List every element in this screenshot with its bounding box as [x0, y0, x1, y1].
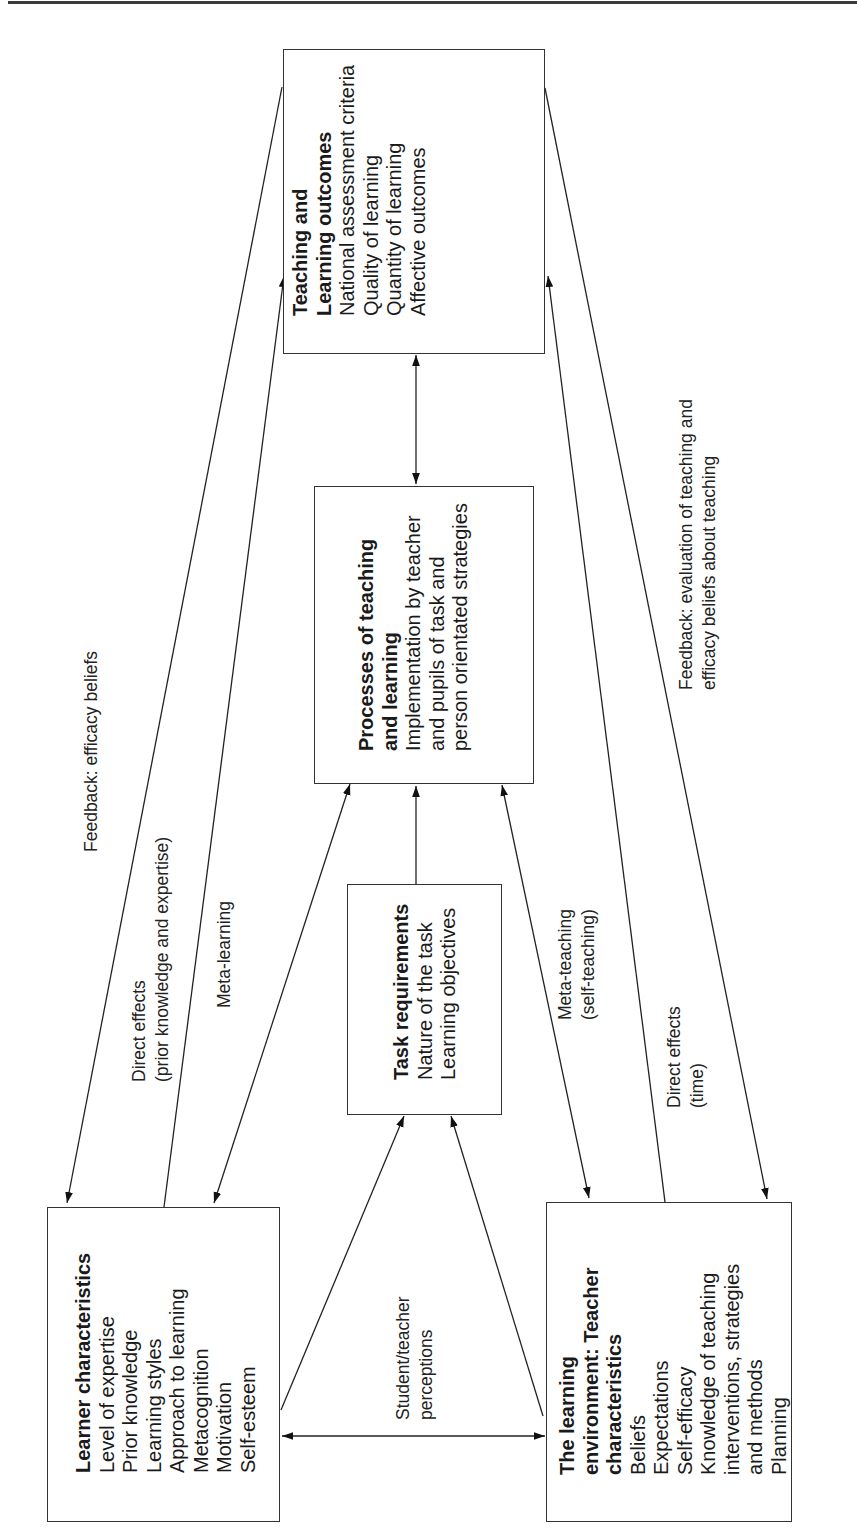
learner-item: Approach to learning: [166, 1253, 190, 1473]
label-meta-teaching: Meta-teaching (self-teaching): [554, 909, 600, 1020]
teacher-item: Beliefs: [627, 1264, 651, 1475]
teacher-item: Expectations: [650, 1264, 674, 1475]
learner-item: Learning styles: [143, 1253, 167, 1473]
teacher-title-line-3: characteristics: [603, 1264, 627, 1475]
label-meta-learning: Meta-learning: [213, 901, 236, 1008]
learner-item: Metacognition: [190, 1253, 214, 1473]
box-task-requirements: Task requirements Nature of the task Lea…: [347, 884, 502, 1115]
teacher-item: Knowledge of teaching: [697, 1264, 721, 1475]
processes-title-line-1: Processes of teaching: [355, 503, 379, 751]
learner-item: Self-esteem: [237, 1253, 261, 1473]
processes-item: and pupils of task and: [426, 503, 450, 751]
label-line: Direct effects: [663, 1006, 686, 1108]
edge-feedback-teaching: [545, 88, 767, 1199]
label-direct-effects-time: Direct effects (time): [663, 1006, 709, 1108]
edge-direct-effects-learner: [164, 276, 284, 1207]
label-student-teacher-perceptions: Student/teacher perceptions: [392, 1296, 438, 1420]
label-line: efficacy beliefs about teaching: [698, 399, 721, 690]
learner-item: Motivation: [213, 1253, 237, 1473]
label-line: Student/teacher: [392, 1296, 415, 1420]
edge-direct-effects-teacher: [548, 276, 665, 1202]
label-line: Meta-learning: [213, 901, 236, 1008]
box-learning-environment-teacher-characteristics: The learning environment: Teacher charac…: [546, 1202, 792, 1522]
box-processes-of-teaching-and-learning: Processes of teaching and learning Imple…: [314, 486, 534, 784]
edge-feedback-efficacy: [67, 87, 282, 1203]
learner-title: Learner characteristics: [72, 1253, 96, 1473]
outcomes-item: Quantity of learning: [383, 65, 407, 316]
label-line: Direct effects: [128, 837, 151, 1082]
label-line: (time): [686, 1006, 709, 1108]
processes-title-line-2: and learning: [379, 503, 403, 751]
teacher-item: and methods: [744, 1264, 768, 1475]
teacher-title-line-2: environment: Teacher: [580, 1264, 604, 1475]
label-feedback-efficacy-beliefs: Feedback: efficacy beliefs: [80, 651, 103, 852]
outcomes-title-line-1: Teaching and: [289, 65, 313, 316]
teacher-item: interventions, strategies: [721, 1264, 745, 1475]
label-line: Meta-teaching: [554, 909, 577, 1020]
label-line: Feedback: evaluation of teaching and: [675, 399, 698, 690]
edge-learner-to-task: [281, 1116, 404, 1410]
edge-teacher-to-task: [451, 1116, 543, 1416]
outcomes-title-line-2: Learning outcomes: [313, 65, 337, 316]
processes-item: person orientated strategies: [449, 503, 473, 751]
box-teaching-learning-outcomes: Teaching and Learning outcomes National …: [283, 49, 545, 354]
label-feedback-evaluation-of-teaching: Feedback: evaluation of teaching and eff…: [675, 399, 721, 690]
outcomes-item: Quality of learning: [360, 65, 384, 316]
box-learner-characteristics: Learner characteristics Level of experti…: [47, 1207, 280, 1522]
label-line: (prior knowledge and expertise): [151, 837, 174, 1082]
teacher-title-line-1: The learning: [556, 1264, 580, 1475]
learner-item: Level of expertise: [96, 1253, 120, 1473]
task-item: Learning objectives: [437, 904, 461, 1080]
outcomes-item: Affective outcomes: [407, 65, 431, 316]
outcomes-item: National assessment criteria: [336, 65, 360, 316]
task-title: Task requirements: [390, 904, 414, 1080]
label-line: Feedback: efficacy beliefs: [80, 651, 103, 852]
processes-item: Implementation by teacher: [402, 503, 426, 751]
label-direct-effects-learner: Direct effects (prior knowledge and expe…: [128, 837, 174, 1082]
task-item: Nature of the task: [414, 904, 438, 1080]
label-line: perceptions: [415, 1296, 438, 1420]
learner-item: Prior knowledge: [119, 1253, 143, 1473]
teacher-item: Self-efficacy: [674, 1264, 698, 1475]
label-line: (self-teaching): [577, 909, 600, 1020]
teacher-item: Planning: [768, 1264, 792, 1475]
